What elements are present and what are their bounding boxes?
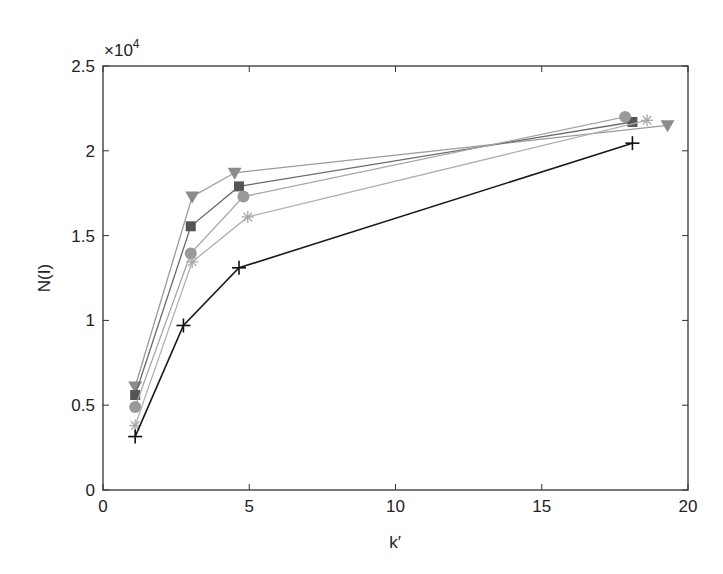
circle-marker-icon [185, 247, 197, 259]
y-tick-label: 1.5 [71, 227, 95, 246]
series-circle [129, 111, 631, 413]
y-tick-label: 2.5 [71, 57, 95, 76]
plot-frame [103, 66, 688, 490]
series-line [135, 117, 625, 407]
square-marker-icon [234, 181, 244, 191]
series-layer [128, 111, 674, 444]
square-marker-icon [186, 221, 196, 231]
circle-marker-icon [619, 111, 631, 123]
y-multiplier-base: ×10 [104, 41, 133, 60]
circle-marker-icon [237, 191, 249, 203]
y-axis-label: N(I) [35, 264, 54, 292]
triangle-marker-icon [228, 168, 242, 180]
y-axis-multiplier: ×104 [104, 37, 140, 60]
x-tick-label: 0 [98, 497, 107, 516]
triangle-marker-icon [185, 192, 199, 204]
y-tick-label: 0 [86, 481, 95, 500]
series-line [135, 125, 667, 386]
x-tick-label: 10 [386, 497, 405, 516]
plus-marker-icon [625, 136, 639, 150]
y-tick-label: 2 [86, 142, 95, 161]
plus-marker-icon [128, 430, 142, 444]
x-tick-label: 15 [532, 497, 551, 516]
asterisk-marker-icon [186, 256, 198, 268]
circle-marker-icon [129, 401, 141, 413]
y-multiplier-exponent: 4 [133, 37, 140, 51]
series-line [135, 122, 632, 395]
asterisk-marker-icon [641, 114, 653, 126]
y-tick-label: 1 [86, 311, 95, 330]
series-square [130, 117, 637, 400]
y-tick-label: 0.5 [71, 396, 95, 415]
x-tick-label: 5 [245, 497, 254, 516]
line-chart: 0510152000.511.522.5 k′ N(I) ×104 [0, 0, 723, 574]
series-triangle [128, 120, 674, 393]
series-plus [128, 136, 639, 443]
x-axis-label: k′ [389, 533, 401, 552]
asterisk-marker-icon [242, 211, 254, 223]
x-tick-label: 20 [679, 497, 698, 516]
